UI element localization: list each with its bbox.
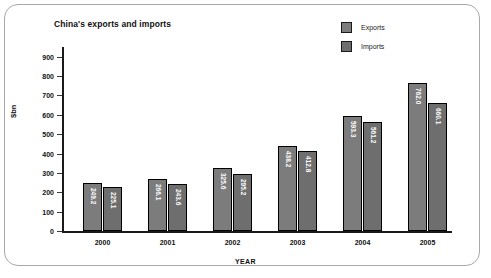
bar-exports-2005: 762.0 (408, 83, 427, 231)
bar-imports-2005: 660.1 (428, 103, 447, 231)
x-tick-label: 2004 (330, 239, 395, 246)
bar-exports-2000: 249.2 (83, 183, 102, 231)
x-axis-line (62, 231, 452, 233)
bar-imports-2003: 412.8 (298, 151, 317, 231)
y-tick-mark (57, 115, 62, 116)
legend-item-exports: Exports (341, 22, 461, 33)
y-tick-label: 500 (42, 131, 54, 138)
bar-group: 438.2412.8 (278, 47, 317, 231)
y-tick-label: 0 (50, 228, 54, 235)
bar-value-label: 762.0 (414, 88, 421, 104)
x-tick-label: 2005 (395, 239, 460, 246)
bar-value-label: 438.2 (284, 151, 291, 167)
bar-imports-2002: 295.2 (233, 174, 252, 231)
x-tick-label: 2002 (200, 239, 265, 246)
bar-imports-2001: 243.6 (168, 184, 187, 231)
legend-label-exports: Exports (361, 24, 385, 31)
bar-exports-2004: 593.3 (343, 116, 362, 231)
y-tick-mark (57, 154, 62, 155)
bar-value-label: 412.8 (304, 156, 311, 172)
y-tick-label: 100 (42, 208, 54, 215)
y-tick-label: 300 (42, 169, 54, 176)
bar-value-label: 225.1 (109, 192, 116, 208)
bar-group: 762.0660.1 (408, 47, 447, 231)
bar-imports-2000: 225.1 (103, 187, 122, 231)
y-tick-mark (57, 57, 62, 58)
bar-group: 249.2225.1 (83, 47, 122, 231)
x-tick-label: 2003 (265, 239, 330, 246)
y-tick-mark (57, 173, 62, 174)
y-tick-label: 900 (42, 53, 54, 60)
y-tick-label: 700 (42, 92, 54, 99)
bar-value-label: 325.6 (219, 173, 226, 189)
bar-value-label: 295.2 (239, 179, 246, 195)
y-tick-mark (57, 212, 62, 213)
bar-value-label: 561.2 (369, 127, 376, 143)
y-tick-mark (57, 95, 62, 96)
chart-title: China's exports and imports (54, 19, 171, 29)
y-tick-mark (57, 192, 62, 193)
y-tick-label: 600 (42, 111, 54, 118)
bar-exports-2003: 438.2 (278, 146, 297, 231)
y-tick-mark (57, 231, 62, 232)
bar-exports-2001: 266.1 (148, 179, 167, 231)
legend-swatch-exports (341, 22, 352, 33)
bar-value-label: 249.2 (89, 188, 96, 204)
chart-screenshot: China's exports and imports Exports Impo… (0, 0, 491, 278)
y-tick-mark (57, 134, 62, 135)
bar-value-label: 266.1 (154, 184, 161, 200)
bar-group: 266.1243.6 (148, 47, 187, 231)
y-tick-label: 400 (42, 150, 54, 157)
bar-group: 593.3561.2 (343, 47, 382, 231)
plot-area: 0100200300400500600700800900 249.2225.12… (62, 47, 452, 233)
bar-value-label: 243.6 (174, 189, 181, 205)
bar-value-label: 660.1 (434, 108, 441, 124)
bar-group: 325.6295.2 (213, 47, 252, 231)
y-tick-label: 800 (42, 73, 54, 80)
y-tick-mark (57, 76, 62, 77)
y-tick-label: 200 (42, 189, 54, 196)
bar-value-label: 593.3 (349, 121, 356, 137)
x-axis-title: YEAR (0, 258, 491, 265)
y-axis-line (62, 47, 64, 233)
y-axis-title: $bn (9, 105, 18, 118)
bar-exports-2002: 325.6 (213, 168, 232, 231)
x-tick-label: 2000 (70, 239, 135, 246)
x-tick-label: 2001 (135, 239, 200, 246)
bar-imports-2004: 561.2 (363, 122, 382, 231)
